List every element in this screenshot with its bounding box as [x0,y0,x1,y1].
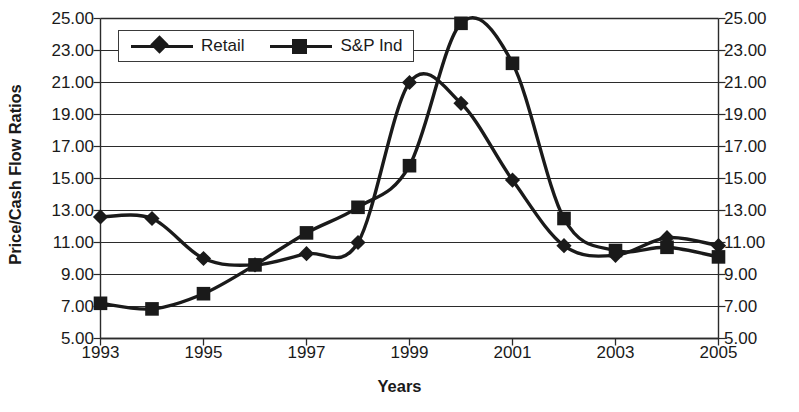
diamond-marker-icon [131,36,193,56]
x-axis-tick-label: 2001 [483,344,543,361]
diamond-marker-icon [144,211,159,226]
legend-item-retail: Retail [131,31,244,61]
x-axis-tick-label: 1997 [277,344,337,361]
square-marker-icon [197,287,211,301]
x-axis-tick-label: 2003 [586,344,646,361]
x-axis-ticks: 1993199519971999200120032005 [0,344,799,372]
x-axis-tick-label: 2005 [689,344,749,361]
diamond-marker-icon [150,35,168,53]
square-marker-icon [248,258,262,272]
square-marker-icon [557,212,571,226]
square-marker-icon [712,250,726,264]
square-marker-icon [94,297,108,311]
square-marker-icon [454,17,468,31]
diamond-marker-icon [299,246,314,261]
square-marker-icon [351,201,365,215]
diamond-marker-icon [93,209,108,224]
price-cash-flow-ratio-chart: Price/Cash Flow Ratios 25.0023.0021.0019… [0,0,799,412]
x-axis-tick-label: 1999 [380,344,440,361]
square-marker-icon [292,39,307,54]
legend-label: S&P Ind [340,36,402,56]
legend-label: Retail [201,36,244,56]
square-marker-icon [403,159,417,173]
square-marker-icon [609,244,623,258]
square-marker-icon [660,241,674,255]
square-marker-icon [145,302,159,316]
diamond-marker-icon [196,251,211,266]
chart-legend: RetailS&P Ind [118,30,414,62]
square-marker-icon [300,226,314,240]
x-axis-tick-label: 1993 [71,344,131,361]
legend-item-s-p-ind: S&P Ind [270,31,402,61]
square-marker-icon [506,57,520,71]
x-axis-tick-label: 1995 [174,344,234,361]
square-marker-icon [270,36,332,56]
x-axis-title: Years [0,377,799,396]
